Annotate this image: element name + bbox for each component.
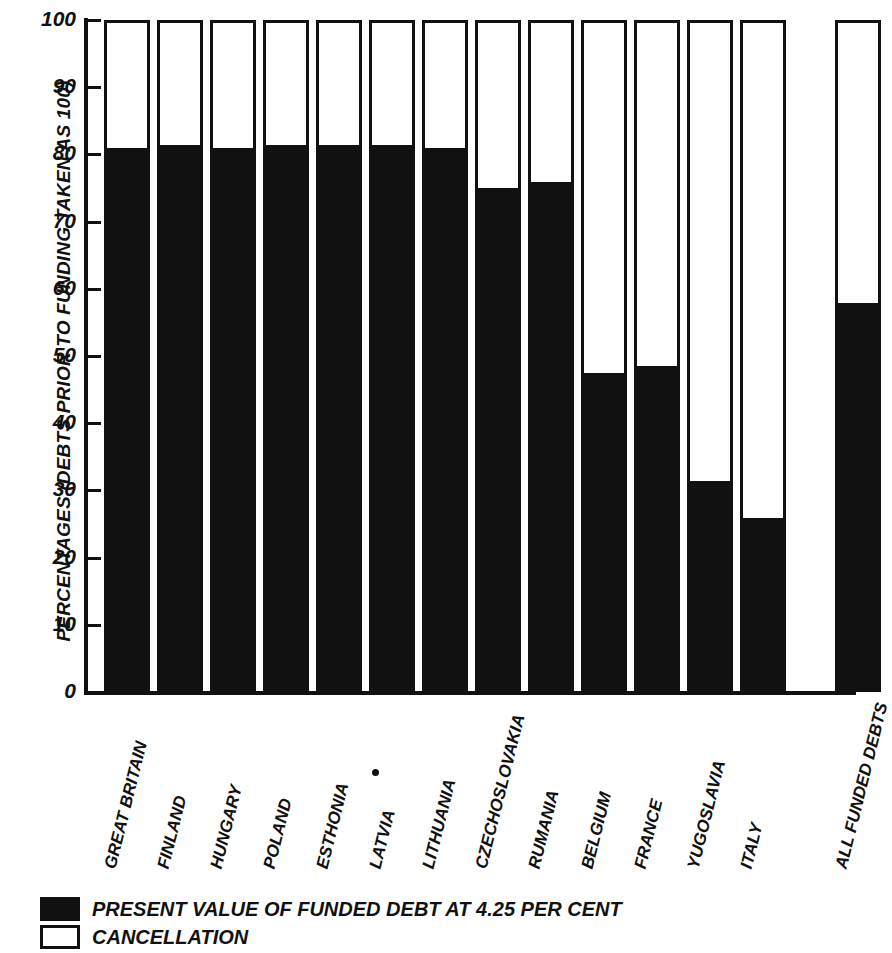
bar-fill-present-value [690,481,730,689]
legend-label-cancellation: CANCELLATION [92,926,248,948]
bar-fill-present-value [425,148,465,689]
bar [263,20,309,692]
bar-fill-present-value [838,303,878,689]
legend-swatch-filled [40,897,80,921]
bar-fill-present-value [637,366,677,689]
bar-fill-present-value [160,145,200,689]
bar-fill-present-value [478,188,518,689]
bar [422,20,468,692]
bar [475,20,521,692]
bar-fill-present-value [531,182,571,689]
bar [740,20,786,692]
bar [581,20,627,692]
bar-fill-present-value [372,145,412,689]
bar [210,20,256,692]
bar [369,20,415,692]
bar-fill-present-value [584,373,624,689]
bar [316,20,362,692]
bar [687,20,733,692]
bar [835,20,881,692]
bar [157,20,203,692]
bar-fill-present-value [213,148,253,689]
bar-fill-present-value [319,145,359,689]
bar [634,20,680,692]
poland-label-dot-mark [372,769,379,776]
bar-fill-present-value [266,145,306,689]
bar-fill-present-value [107,148,147,689]
legend-swatch-hollow [40,925,80,949]
bar [528,20,574,692]
bar-fill-present-value [743,518,783,689]
legend-label-present-value: PRESENT VALUE OF FUNDED DEBT AT 4.25 PER… [92,898,622,920]
bar [104,20,150,692]
